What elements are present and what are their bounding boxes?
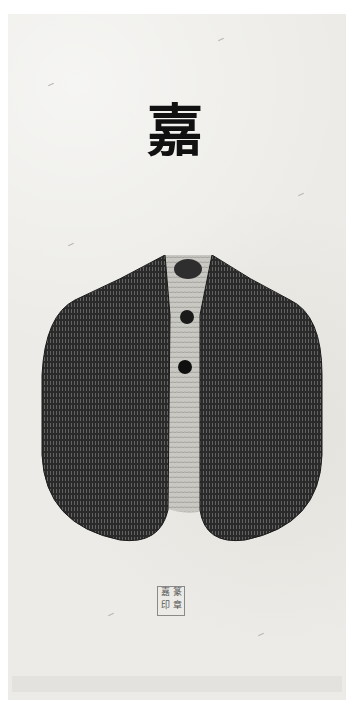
paper-fleck bbox=[68, 243, 74, 246]
artist-seal: 嘉 篆 印 章 bbox=[157, 586, 185, 616]
vest-button bbox=[178, 360, 192, 374]
vest-illustration bbox=[40, 255, 324, 545]
scroll-bottom-band bbox=[12, 676, 342, 692]
seal-char: 章 bbox=[171, 601, 183, 614]
paper-fleck bbox=[298, 193, 304, 196]
seal-char: 印 bbox=[159, 601, 171, 614]
paper-fleck bbox=[48, 83, 54, 86]
paper-fleck bbox=[218, 38, 224, 41]
vest-left-panel bbox=[42, 255, 170, 541]
vest-button bbox=[180, 310, 194, 324]
collar-button bbox=[174, 259, 202, 279]
vest-right-panel bbox=[200, 255, 322, 541]
paper-fleck bbox=[108, 613, 114, 616]
paper-fleck bbox=[258, 633, 264, 636]
title-character: 嘉 bbox=[140, 95, 210, 165]
